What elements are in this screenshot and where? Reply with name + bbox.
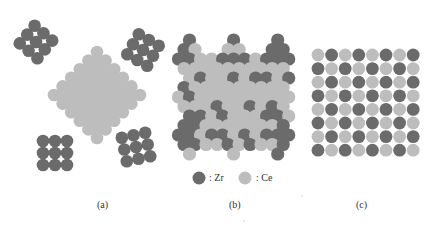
zr-atom: [325, 130, 338, 143]
ce-atom: [352, 144, 365, 157]
zr-legend-swatch: [193, 172, 206, 185]
zr-atom: [118, 143, 131, 156]
ce-atom: [352, 62, 365, 75]
ce-atom: [339, 103, 352, 116]
ce-atom: [91, 123, 104, 136]
zr-atom: [352, 103, 365, 116]
zr-atom: [393, 62, 406, 75]
zr-atom: [407, 76, 420, 89]
zr-legend-label: : Zr: [209, 172, 224, 183]
zr-atom: [380, 103, 393, 116]
zr-atom: [393, 89, 406, 102]
zr-atom: [141, 59, 154, 72]
zr-atom: [144, 150, 157, 163]
zr-atom: [325, 49, 338, 62]
panel-b-lattice: [172, 33, 295, 160]
zr-atom: [366, 62, 379, 75]
panel-a-label: (a): [97, 199, 108, 210]
zr-atom: [407, 49, 420, 62]
ce-atom: [407, 117, 420, 130]
zr-atom: [61, 159, 74, 172]
zr-atom: [49, 147, 62, 160]
zr-atom: [121, 155, 134, 168]
zr-atom: [366, 117, 379, 130]
zr-atom: [127, 129, 140, 142]
zr-atom: [366, 89, 379, 102]
ce-atom: [339, 49, 352, 62]
zr-atom: [132, 152, 145, 165]
zr-atom: [61, 147, 74, 160]
ce-atom: [380, 62, 393, 75]
ce-atom: [407, 62, 420, 75]
ce-atom: [380, 89, 393, 102]
zr-atom: [312, 62, 325, 75]
ce-atom: [312, 49, 325, 62]
panel-b-label: (b): [229, 199, 241, 210]
ce-legend-label: : Ce: [256, 172, 272, 183]
zr-atom: [49, 135, 62, 148]
ce-atom: [339, 76, 352, 89]
ce-atom: [352, 89, 365, 102]
zr-atom: [325, 76, 338, 89]
zr-atom: [339, 62, 352, 75]
zr-atom: [139, 127, 152, 140]
zr-atom: [393, 117, 406, 130]
ce-atom: [366, 76, 379, 89]
ce-atom: [325, 89, 338, 102]
panel-c-lattice: [312, 49, 420, 157]
zr-atom: [407, 130, 420, 143]
zr-atom: [141, 138, 154, 151]
ce-atom: [183, 147, 196, 160]
zr-atom: [49, 159, 62, 172]
panel-c-label: (c): [356, 199, 367, 210]
ce-atom: [393, 49, 406, 62]
figure-canvas: [0, 0, 429, 225]
ce-atom: [366, 49, 379, 62]
ce-atom: [312, 76, 325, 89]
ce-atom: [407, 144, 420, 157]
zr-atom: [37, 159, 50, 172]
zr-atom: [339, 117, 352, 130]
ce-atom: [325, 62, 338, 75]
zr-atom: [116, 132, 129, 145]
ce-atom: [312, 103, 325, 116]
ce-atom: [393, 76, 406, 89]
zr-atom: [352, 49, 365, 62]
zr-atom: [37, 147, 50, 160]
zr-atom: [352, 130, 365, 143]
ce-atom: [380, 144, 393, 157]
ce-atom: [393, 130, 406, 143]
zr-atom: [31, 52, 44, 65]
zr-atom: [325, 103, 338, 116]
ce-atom: [352, 117, 365, 130]
zr-atom: [393, 144, 406, 157]
zr-atom: [407, 103, 420, 116]
zr-atom: [339, 144, 352, 157]
ce-atom: [325, 144, 338, 157]
zr-atom: [352, 76, 365, 89]
ce-legend-swatch: [239, 172, 252, 185]
zr-atom: [37, 135, 50, 148]
zr-atom: [380, 49, 393, 62]
ce-atom: [312, 130, 325, 143]
speck-artifact: [243, 220, 245, 222]
ce-atom: [380, 117, 393, 130]
ce-atom: [339, 130, 352, 143]
zr-atom: [312, 144, 325, 157]
panel-a-lattice: [13, 20, 165, 172]
zr-atom: [271, 147, 284, 160]
zr-atom: [339, 89, 352, 102]
zr-atom: [366, 144, 379, 157]
zr-atom: [312, 117, 325, 130]
ce-atom: [393, 103, 406, 116]
zr-atom: [312, 89, 325, 102]
ce-atom: [227, 147, 240, 160]
ce-atom: [366, 130, 379, 143]
zr-atom: [380, 130, 393, 143]
ce-atom: [366, 103, 379, 116]
speck-artifact: [301, 195, 303, 197]
ce-atom: [407, 89, 420, 102]
ce-atom: [325, 117, 338, 130]
zr-atom: [380, 76, 393, 89]
zr-atom: [61, 135, 74, 148]
